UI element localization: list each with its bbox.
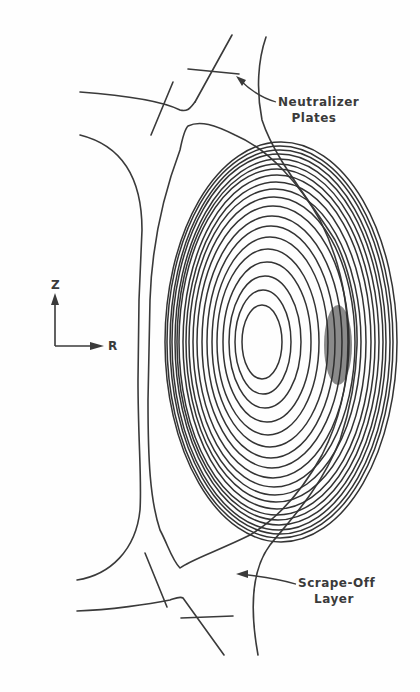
nested-flux-surfaces (165, 142, 397, 542)
neutralizer-label-line2: Plates (278, 110, 350, 126)
coordinate-axes (55, 302, 96, 346)
scrape-off-label-line2: Layer (298, 591, 370, 607)
separatrix-lower-left-leg (77, 597, 224, 655)
neutralizer-plate-lower-right (181, 616, 233, 618)
z-axis-label: Z (51, 278, 60, 292)
separatrix-upper-left-leg (80, 92, 195, 111)
inner-wall-curve (77, 135, 142, 580)
scrape-off-arrowhead (236, 570, 248, 578)
r-arrow-icon (90, 342, 104, 350)
tokamak-flux-diagram: Z R Neutralizer Plates Scrape-Off Layer (0, 0, 420, 692)
scrape-off-label-line1: Scrape-Off (298, 575, 370, 591)
neutralizer-plate-lower-left (145, 553, 167, 607)
z-arrow-icon (51, 293, 59, 305)
axis-arrowheads (51, 293, 104, 350)
neutralizer-label-line1: Neutralizer (278, 94, 350, 110)
scrape-off-layer-label: Scrape-Off Layer (298, 575, 370, 607)
scrape-off-arrow-line (240, 574, 296, 584)
r-axis-label: R (108, 339, 117, 353)
separatrix-upper-right-leg (195, 35, 232, 102)
outboard-dense-region (324, 305, 352, 385)
neutralizer-plates-label: Neutralizer Plates (278, 94, 350, 126)
neutralizer-plate-upper-left (151, 82, 173, 135)
